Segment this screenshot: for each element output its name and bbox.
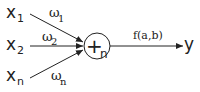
svg-text:2: 2 bbox=[51, 36, 57, 47]
neuron-diagram: x 1 ω 1 x 2 ω 2 x n ω n + n f(a,b) y bbox=[0, 0, 200, 92]
weight-w2: ω 2 bbox=[42, 29, 57, 47]
svg-text:x: x bbox=[6, 65, 16, 85]
weight-w1: ω 1 bbox=[49, 5, 64, 24]
activation-label: f(a,b) bbox=[133, 29, 163, 42]
input-x1: x 1 bbox=[6, 2, 24, 25]
svg-text:x: x bbox=[6, 2, 16, 22]
weight-wn: ω n bbox=[51, 68, 67, 87]
svg-text:n: n bbox=[17, 75, 24, 88]
svg-text:n: n bbox=[60, 76, 67, 87]
input-x2: x 2 bbox=[6, 34, 24, 57]
svg-text:x: x bbox=[6, 34, 16, 54]
svg-text:n: n bbox=[100, 47, 108, 61]
svg-text:2: 2 bbox=[17, 44, 24, 57]
svg-text:1: 1 bbox=[17, 12, 24, 25]
input-xn: x n bbox=[6, 65, 24, 88]
sum-node: + n bbox=[84, 33, 110, 61]
output-y: y bbox=[184, 34, 194, 54]
svg-text:1: 1 bbox=[58, 13, 64, 24]
